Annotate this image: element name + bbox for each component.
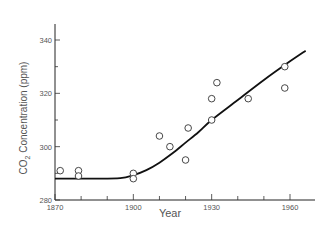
- trend-curve: [55, 51, 306, 179]
- data-point-circle: [130, 175, 137, 182]
- data-point-circle: [75, 173, 82, 180]
- x-tick-label: 1960: [282, 203, 299, 212]
- data-point-circle: [57, 167, 64, 174]
- data-point-circle: [182, 157, 189, 164]
- data-point-circle: [208, 117, 215, 124]
- data-point-circle: [281, 63, 288, 70]
- y-tick-label: 340: [39, 36, 52, 45]
- trend-line: [55, 51, 306, 179]
- y-axis-label: CO2 Concentration (ppm): [18, 62, 31, 175]
- data-point-circle: [167, 143, 174, 150]
- data-point-circle: [281, 85, 288, 92]
- y-tick-label: 300: [39, 143, 52, 152]
- data-point-circle: [156, 133, 163, 140]
- data-point-circle: [245, 95, 252, 102]
- data-point-circle: [214, 79, 221, 86]
- x-tick-label: 1900: [125, 203, 142, 212]
- data-points: [57, 63, 288, 182]
- co2-chart: 1870190019301960280300320340 Year CO2 Co…: [0, 0, 331, 228]
- data-point-circle: [208, 95, 215, 102]
- data-point-circle: [185, 125, 192, 132]
- x-tick-label: 1930: [203, 203, 220, 212]
- y-tick-label: 280: [39, 196, 52, 205]
- y-tick-label: 320: [39, 89, 52, 98]
- axes: 1870190019301960280300320340: [39, 24, 315, 212]
- x-axis-label: Year: [159, 207, 182, 219]
